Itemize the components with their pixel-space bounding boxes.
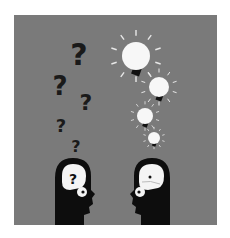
illustration-panel: Questions vs. ideas ????? ? bbox=[14, 15, 217, 225]
left-pupil-icon bbox=[81, 190, 84, 193]
question-mark-icon: ? bbox=[52, 71, 67, 101]
question-mark-icon: ? bbox=[71, 137, 80, 156]
question-mark-icon: ? bbox=[80, 90, 93, 115]
question-mark-icon: ? bbox=[70, 37, 87, 72]
left-head-question-icon: ? bbox=[69, 171, 77, 187]
right-pupil-icon bbox=[137, 190, 140, 193]
gray-background bbox=[14, 15, 217, 225]
brain-dot-icon bbox=[149, 176, 152, 179]
illustration-canvas: ????? ? bbox=[14, 15, 217, 225]
question-mark-icon: ? bbox=[56, 115, 66, 136]
